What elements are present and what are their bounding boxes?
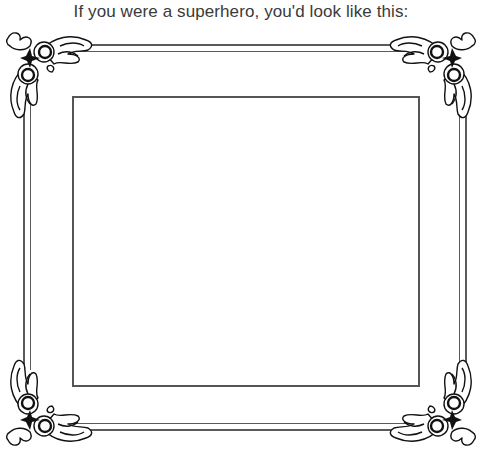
frame-top-inner-line bbox=[60, 51, 432, 52]
corner-ornament-icon bbox=[2, 350, 102, 450]
frame-left-inner-line bbox=[30, 100, 31, 370]
corner-ornament-icon bbox=[380, 350, 480, 450]
frame-top-outer-line bbox=[60, 44, 432, 46]
frame-left-outer-line bbox=[23, 100, 25, 370]
frame-right-inner-line bbox=[459, 100, 460, 370]
page-caption: If you were a superhero, you'd look like… bbox=[0, 2, 482, 22]
frame-right-outer-line bbox=[465, 100, 467, 370]
photo-placeholder-box bbox=[72, 96, 420, 387]
corner-ornament-icon bbox=[2, 28, 102, 128]
corner-ornament-icon bbox=[380, 28, 480, 128]
frame-bottom-outer-line bbox=[60, 429, 432, 431]
frame-bottom-inner-line bbox=[60, 423, 432, 424]
